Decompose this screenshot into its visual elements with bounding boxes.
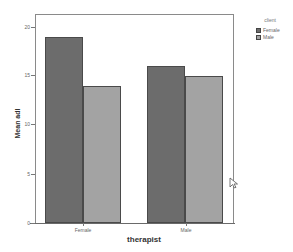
x-tick-label: Female bbox=[63, 227, 103, 233]
y-tick bbox=[31, 27, 35, 28]
y-tick-label: 0 bbox=[14, 220, 30, 226]
legend-title: client bbox=[255, 17, 285, 23]
x-tick bbox=[83, 223, 84, 226]
bar-male-male bbox=[185, 76, 223, 223]
x-tick-label: Male bbox=[166, 227, 206, 233]
legend-item-male: Male bbox=[256, 34, 274, 40]
y-tick bbox=[31, 124, 35, 125]
y-tick bbox=[31, 174, 35, 175]
bar-male-female bbox=[147, 66, 185, 223]
y-tick-label: 5 bbox=[14, 171, 30, 177]
y-tick bbox=[31, 75, 35, 76]
legend-swatch-icon bbox=[256, 28, 261, 33]
x-axis-line bbox=[30, 223, 235, 224]
y-tick-label: 15 bbox=[14, 72, 30, 78]
bar-female-male bbox=[83, 86, 121, 223]
legend-item-female: Female bbox=[256, 27, 280, 33]
legend-swatch-icon bbox=[256, 35, 261, 40]
y-tick-label: 20 bbox=[14, 24, 30, 30]
x-axis-title: therapist bbox=[114, 235, 174, 244]
y-axis-title: Mean adl bbox=[14, 99, 21, 149]
x-tick bbox=[186, 223, 187, 226]
mouse-pointer-icon bbox=[229, 177, 239, 189]
legend-label: Male bbox=[263, 34, 274, 40]
y-tick bbox=[31, 223, 35, 224]
bar-female-female bbox=[45, 37, 83, 223]
legend-label: Female bbox=[263, 27, 280, 33]
